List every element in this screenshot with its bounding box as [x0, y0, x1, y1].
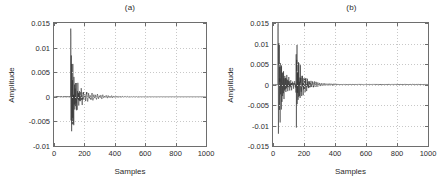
- y-tick-mark: [425, 126, 428, 127]
- y-tick-mark: [203, 121, 206, 122]
- x-tick-label: 400: [329, 149, 342, 158]
- x-tick-label: 800: [391, 149, 404, 158]
- x-tick-label: 600: [139, 149, 152, 158]
- gridline-horizontal: [273, 126, 428, 127]
- gridline-vertical: [115, 23, 116, 146]
- figure: (a) Amplitude Samples 02004006008001000 …: [0, 0, 442, 185]
- subplot-a-x-axis-label: Samples: [53, 167, 207, 177]
- subplot-a-y-axis-label: Amplitude: [7, 55, 17, 115]
- y-tick-mark: [425, 64, 428, 65]
- x-tick-mark: [206, 143, 207, 146]
- x-tick-mark: [304, 143, 305, 146]
- y-tick-mark: [54, 121, 57, 122]
- y-tick-label: 0.005: [250, 60, 269, 69]
- x-tick-mark: [428, 143, 429, 146]
- subplot-a-title: (a): [53, 3, 207, 13]
- x-tick-label: 0: [271, 149, 275, 158]
- gridline-vertical: [176, 23, 177, 146]
- gridline-horizontal: [273, 64, 428, 65]
- gridline-horizontal: [54, 97, 206, 98]
- x-tick-mark: [366, 143, 367, 146]
- subplot-a-waveform: [54, 23, 206, 146]
- y-tick-mark: [54, 97, 57, 98]
- subplot-b-x-axis-label: Samples: [272, 167, 429, 177]
- y-tick-label: -0.015: [248, 142, 269, 151]
- y-tick-mark: [273, 64, 276, 65]
- y-tick-mark: [54, 146, 57, 147]
- subplot-a-plot-area: [53, 22, 207, 147]
- y-tick-mark: [273, 126, 276, 127]
- y-tick-label: 0.01: [35, 43, 50, 52]
- gridline-horizontal: [273, 85, 428, 86]
- x-tick-mark: [145, 143, 146, 146]
- y-tick-mark: [273, 44, 276, 45]
- subplot-b-title: (b): [272, 3, 431, 13]
- x-tick-mark: [176, 23, 177, 26]
- subplot-a: (a) Amplitude Samples 02004006008001000 …: [0, 0, 221, 185]
- x-tick-label: 0: [52, 149, 56, 158]
- x-tick-label: 200: [78, 149, 91, 158]
- gridline-horizontal: [273, 44, 428, 45]
- y-tick-mark: [425, 105, 428, 106]
- y-tick-label: -0.005: [248, 101, 269, 110]
- y-tick-label: -0.01: [252, 121, 269, 130]
- x-tick-label: 1000: [198, 149, 215, 158]
- waveform-line: [54, 29, 206, 132]
- y-tick-mark: [54, 23, 57, 24]
- subplot-b-y-axis-label: Amplitude: [226, 55, 236, 115]
- x-tick-mark: [206, 23, 207, 26]
- y-tick-mark: [425, 44, 428, 45]
- x-tick-mark: [428, 23, 429, 26]
- y-tick-mark: [203, 97, 206, 98]
- y-tick-label: -0.005: [29, 117, 50, 126]
- x-tick-label: 600: [360, 149, 373, 158]
- y-tick-mark: [425, 85, 428, 86]
- y-tick-mark: [273, 146, 276, 147]
- x-tick-mark: [176, 143, 177, 146]
- x-tick-label: 400: [109, 149, 122, 158]
- gridline-vertical: [145, 23, 146, 146]
- y-tick-mark: [54, 72, 57, 73]
- y-tick-mark: [273, 105, 276, 106]
- x-tick-label: 200: [298, 149, 311, 158]
- x-tick-mark: [84, 143, 85, 146]
- subplot-b: (b) Amplitude Samples 02004006008001000 …: [221, 0, 442, 185]
- gridline-vertical: [84, 23, 85, 146]
- y-tick-mark: [273, 85, 276, 86]
- x-tick-label: 800: [169, 149, 182, 158]
- x-tick-mark: [145, 23, 146, 26]
- x-tick-mark: [115, 23, 116, 26]
- y-tick-mark: [54, 48, 57, 49]
- y-tick-label: 0.01: [254, 39, 269, 48]
- y-tick-label: 0.015: [250, 19, 269, 28]
- waveform-line: [273, 23, 428, 134]
- x-tick-mark: [335, 23, 336, 26]
- y-tick-mark: [203, 48, 206, 49]
- y-tick-mark: [203, 23, 206, 24]
- y-tick-mark: [203, 72, 206, 73]
- y-tick-label: 0.005: [31, 68, 50, 77]
- x-tick-mark: [304, 23, 305, 26]
- subplot-b-plot-area: [272, 22, 429, 147]
- x-tick-mark: [84, 23, 85, 26]
- y-tick-mark: [425, 146, 428, 147]
- x-tick-mark: [397, 143, 398, 146]
- gridline-horizontal: [54, 48, 206, 49]
- x-tick-label: 1000: [420, 149, 437, 158]
- y-tick-mark: [273, 23, 276, 24]
- gridline-horizontal: [273, 105, 428, 106]
- y-tick-mark: [425, 23, 428, 24]
- y-tick-label: 0.015: [31, 19, 50, 28]
- y-tick-label: -0.01: [33, 142, 50, 151]
- x-tick-mark: [397, 23, 398, 26]
- y-tick-label: 0: [265, 80, 269, 89]
- gridline-horizontal: [54, 72, 206, 73]
- x-tick-mark: [366, 23, 367, 26]
- y-tick-label: 0: [46, 92, 50, 101]
- y-tick-mark: [203, 146, 206, 147]
- x-tick-mark: [335, 143, 336, 146]
- x-tick-mark: [115, 143, 116, 146]
- gridline-horizontal: [54, 121, 206, 122]
